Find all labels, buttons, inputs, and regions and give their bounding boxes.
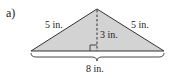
left-side-label: 5 in. xyxy=(45,19,63,30)
base-label: 8 in. xyxy=(86,63,104,74)
part-label: a) xyxy=(6,6,15,20)
right-side-label: 5 in. xyxy=(131,19,149,30)
triangle-diagram: a) 5 in. 5 in. 3 in. 8 in. xyxy=(0,0,175,78)
height-label: 3 in. xyxy=(100,29,118,40)
base-brace xyxy=(31,53,164,61)
